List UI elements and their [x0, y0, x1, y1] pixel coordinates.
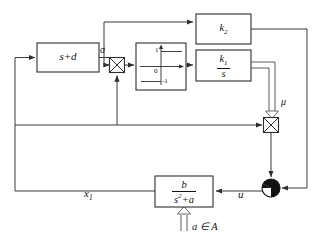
- wire-k2-to-summing-junction: [251, 29, 307, 188]
- multiplier-node-mu-glyph[interactable]: [264, 118, 279, 133]
- relay-origin-label: 0: [154, 68, 158, 75]
- sigma-signal-label: σ: [100, 45, 105, 55]
- plant-block-label: b s2+a: [155, 180, 213, 205]
- k2-subscript: 2: [224, 28, 228, 36]
- plant-denominator: s2+a: [172, 193, 196, 205]
- wire-parameter-input-hollow: [178, 207, 191, 232]
- relay-lower-level-label: -1: [162, 78, 168, 85]
- k1-over-s-fraction: k1 s: [217, 54, 229, 80]
- k1-denominator: s: [217, 69, 229, 80]
- plant-den-rest: +a: [182, 193, 194, 204]
- plant-fraction: b s2+a: [172, 180, 196, 205]
- k2-gain-block-label: k2: [196, 22, 251, 37]
- wire-k1-to-multiplier2-hollow: [251, 62, 279, 119]
- relay-upper-level-label: 1: [155, 47, 159, 54]
- u-signal-label: u: [238, 189, 244, 200]
- mu-signal-label: μ: [281, 97, 286, 107]
- s-plus-d-block-label: s+d: [37, 51, 99, 63]
- summing-junction-u-glyph[interactable]: [259, 176, 283, 200]
- k1-subscript: 1: [224, 59, 228, 67]
- signum-nonlinearity-block-outline[interactable]: [136, 43, 186, 90]
- plant-numerator: b: [172, 180, 196, 191]
- multiplier-node-sigma-glyph[interactable]: [110, 58, 125, 73]
- wire-plant-to-lead-filter: [15, 58, 155, 192]
- diagram-vector-layer: [0, 0, 322, 245]
- block-diagram-canvas: s+d k2 k1 s b s2+a 1 0 -1 σ μ u x1 a ∈ A: [0, 0, 322, 245]
- parameter-set-label: a ∈ A: [192, 222, 218, 233]
- x1-subscript: 1: [89, 193, 93, 202]
- k1-numerator: k1: [217, 54, 229, 67]
- k1-over-s-block-label: k1 s: [196, 54, 251, 80]
- x1-signal-label: x1: [84, 188, 93, 202]
